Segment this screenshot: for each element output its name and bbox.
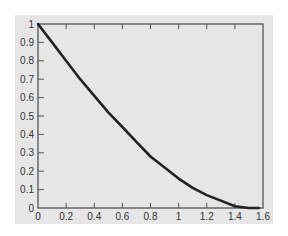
y-tick-label: 0 [28,203,34,214]
y-tick-label: 0.9 [20,37,34,48]
y-tick-label: 0.6 [20,92,34,103]
x-tick-label: 1 [176,211,182,222]
y-tick-label: 0.7 [20,74,34,85]
x-tick-label: 0.4 [87,211,101,222]
line-chart: 00.20.40.60.811.21.41.600.10.20.30.40.50… [0,0,288,236]
y-tick-label: 0.5 [20,111,34,122]
y-tick-label: 0.4 [20,129,34,140]
x-tick-label: 1.6 [256,211,270,222]
data-line [38,24,259,208]
y-tick-label: 0.2 [20,166,34,177]
x-tick-label: 0.8 [144,211,158,222]
x-tick-label: 0 [35,211,41,222]
plot-frame [38,24,263,208]
y-tick-label: 0.8 [20,55,34,66]
x-tick-label: 0.2 [59,211,73,222]
x-tick-label: 1.2 [200,211,214,222]
x-tick-label: 0.6 [115,211,129,222]
y-tick-label: 1 [28,19,34,30]
x-tick-label: 1.4 [228,211,242,222]
y-tick-label: 0.1 [20,184,34,195]
y-tick-label: 0.3 [20,147,34,158]
